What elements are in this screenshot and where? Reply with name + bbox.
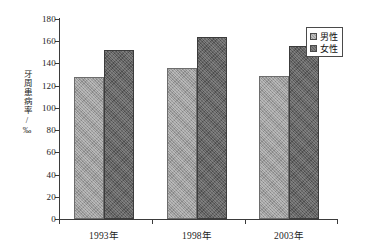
y-tick-label-0: 0 <box>51 214 56 224</box>
bar-female-1993 <box>104 50 134 219</box>
bar-male-1993 <box>74 77 104 219</box>
legend-swatch-female-icon <box>310 45 317 52</box>
y-tick-label-140: 140 <box>42 58 56 68</box>
plot-area <box>60 19 337 219</box>
y-tick-label-40: 40 <box>47 170 56 180</box>
legend-item-female: 女性 <box>310 42 338 54</box>
legend-label-female: 女性 <box>320 42 338 55</box>
bar-female-2003 <box>289 46 319 219</box>
x-category-label-2003: 2003年 <box>259 228 319 242</box>
x-category-label-1993: 1993年 <box>74 228 134 242</box>
bar-female-1998 <box>197 37 227 219</box>
y-tick-label-80: 80 <box>47 125 56 135</box>
y-tick-label-60: 60 <box>47 147 56 157</box>
y-axis-title: 牙周患病率/‰ <box>18 70 31 135</box>
legend-item-male: 男性 <box>310 30 338 42</box>
y-tick-label-180: 180 <box>42 14 56 24</box>
chart-legend: 男性 女性 <box>306 27 343 57</box>
x-tick-end <box>337 219 338 224</box>
bar-male-1998 <box>167 68 197 219</box>
y-tick-label-20: 20 <box>47 192 56 202</box>
x-category-label-1998: 1998年 <box>167 228 227 242</box>
bar-chart: 牙周患病率/‰ 180 160 140 120 100 80 60 40 20 <box>0 0 372 252</box>
x-tick-start <box>59 219 60 224</box>
y-tick-label-160: 160 <box>42 36 56 46</box>
x-tick-sep-2 <box>245 219 246 224</box>
y-tick-label-100: 100 <box>42 103 56 113</box>
bar-male-2003 <box>259 76 289 219</box>
y-tick-label-120: 120 <box>42 81 56 91</box>
x-tick-sep-1 <box>152 219 153 224</box>
legend-swatch-male-icon <box>310 33 317 40</box>
x-axis-line <box>59 219 338 220</box>
